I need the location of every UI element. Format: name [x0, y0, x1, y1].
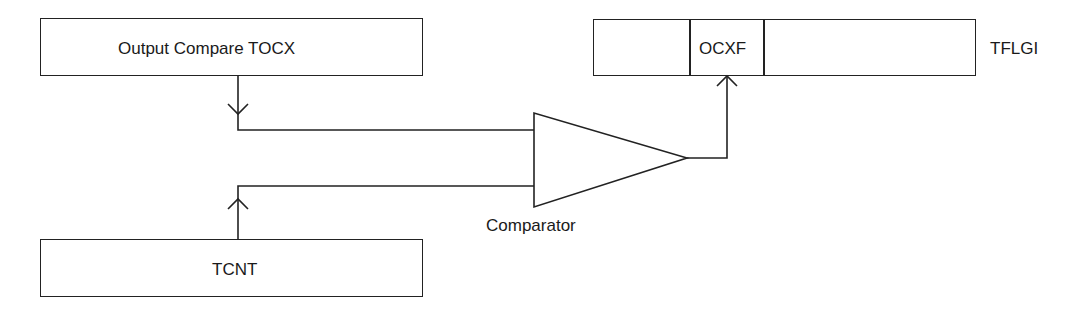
tcnt-label: TCNT — [212, 261, 257, 278]
tflgi-register-label: TFLGI — [990, 40, 1038, 57]
comparator-to-ocxf-wire — [687, 76, 727, 158]
comparator-label: Comparator — [486, 217, 576, 234]
output-compare-label: Output Compare TOCX — [118, 40, 295, 57]
tflgi-register — [593, 19, 976, 76]
tflgi-divider — [689, 19, 691, 76]
ocxf-bit-label: OCXF — [699, 40, 746, 57]
tflgi-divider — [763, 19, 765, 76]
tocx-to-comparator-wire — [238, 75, 534, 130]
comparator-triangle — [534, 113, 687, 207]
